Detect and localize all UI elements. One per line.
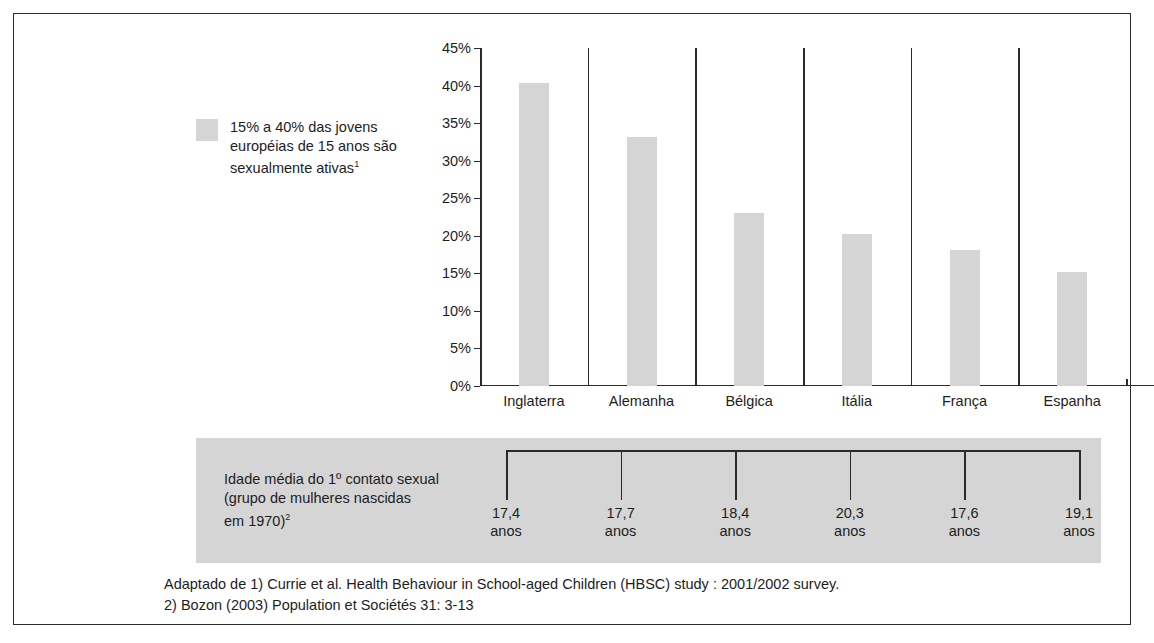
age-bracket-stem: [621, 450, 623, 500]
x-axis-tick: [480, 379, 482, 386]
age-panel-label-line-1: Idade média do 1º contato sexual: [224, 471, 439, 487]
category-separator-line: [803, 48, 805, 386]
age-value: 17,7anos: [605, 504, 636, 540]
legend-label-line-3: sexualmente ativas: [230, 160, 354, 176]
y-axis-tick-label: 0%: [450, 378, 480, 394]
age-bracket-line: [506, 450, 1079, 452]
age-number: 20,3: [836, 505, 864, 521]
x-axis-category-label: Alemanha: [609, 393, 674, 409]
age-value: 19,1anos: [1063, 504, 1094, 540]
bar: [950, 250, 980, 386]
age-panel-label: Idade média do 1º contato sexual (grupo …: [224, 470, 474, 531]
x-axis-category-label: Bélgica: [725, 393, 773, 409]
x-axis-category-label: Espanha: [1044, 393, 1101, 409]
age-unit: anos: [719, 523, 750, 539]
age-value: 20,3anos: [834, 504, 865, 540]
age-number: 17,7: [606, 505, 634, 521]
age-panel-label-line-2: (grupo de mulheres nascidas: [224, 490, 411, 506]
age-unit: anos: [834, 523, 865, 539]
category-separator-line: [1018, 48, 1020, 386]
age-number: 19,1: [1065, 505, 1093, 521]
plot-area: 0%5%10%15%20%25%30%35%40%45% InglaterraA…: [480, 48, 1126, 386]
bar: [1057, 272, 1087, 386]
legend-label-line-2: européias de 15 anos são: [230, 138, 397, 154]
category-separator-line: [695, 48, 697, 386]
footnote-line-1: Adaptado de 1) Currie et al. Health Beha…: [164, 576, 839, 592]
x-axis-tick: [695, 379, 697, 386]
y-axis-tick-label: 20%: [442, 228, 480, 244]
y-axis-tick-label: 15%: [442, 265, 480, 281]
x-axis-tick: [1126, 379, 1128, 386]
x-axis-tick: [588, 379, 590, 386]
age-number: 17,4: [492, 505, 520, 521]
age-unit: anos: [949, 523, 980, 539]
x-axis-category-label: França: [942, 393, 987, 409]
y-axis-tick-label: 45%: [442, 40, 480, 56]
footnote-line-2: 2) Bozon (2003) Population et Sociétés 3…: [164, 597, 474, 613]
legend-footnote-marker: 1: [354, 159, 359, 169]
bar: [842, 234, 872, 386]
age-value: 17,4anos: [490, 504, 521, 540]
bar: [519, 83, 549, 386]
category-separator-line: [911, 48, 913, 386]
age-value: 17,6anos: [949, 504, 980, 540]
x-axis-tick: [1018, 379, 1020, 386]
x-axis-category-label: Inglaterra: [503, 393, 564, 409]
age-number: 17,6: [950, 505, 978, 521]
y-axis-tick-label: 40%: [442, 78, 480, 94]
source-footnote: Adaptado de 1) Currie et al. Health Beha…: [164, 574, 1044, 616]
y-axis-tick-label: 35%: [442, 115, 480, 131]
y-axis-tick-label: 25%: [442, 190, 480, 206]
age-unit: anos: [605, 523, 636, 539]
age-bracket-stem: [735, 450, 737, 500]
legend-label-line-1: 15% a 40% das jovens: [230, 119, 378, 135]
age-panel: Idade média do 1º contato sexual (grupo …: [196, 438, 1101, 563]
bar: [734, 213, 764, 386]
category-separator-line: [588, 48, 590, 386]
legend-color-swatch: [196, 119, 218, 141]
legend-label: 15% a 40% das jovens européias de 15 ano…: [230, 118, 397, 177]
age-bracket-stem: [506, 450, 508, 500]
bar: [627, 137, 657, 386]
age-panel-label-line-3: em 1970): [224, 513, 285, 529]
age-number: 18,4: [721, 505, 749, 521]
x-axis-category-label: Itália: [842, 393, 873, 409]
age-value: 18,4anos: [719, 504, 750, 540]
age-bracket-stem: [1079, 450, 1081, 500]
y-axis-tick-label: 30%: [442, 153, 480, 169]
figure-frame: 15% a 40% das jovens européias de 15 ano…: [13, 13, 1131, 625]
age-bracket-stem: [850, 450, 852, 500]
age-bracket-stem: [964, 450, 966, 500]
age-bracket: [506, 450, 1079, 500]
x-axis-tick: [803, 379, 805, 386]
age-unit: anos: [490, 523, 521, 539]
y-axis-line: [480, 48, 482, 386]
y-axis-tick-label: 5%: [450, 340, 480, 356]
bar-chart: 0%5%10%15%20%25%30%35%40%45% InglaterraA…: [432, 42, 1132, 402]
age-unit: anos: [1063, 523, 1094, 539]
y-axis-tick-label: 10%: [442, 303, 480, 319]
x-axis-line: [480, 385, 1154, 387]
age-panel-footnote-marker: 2: [285, 512, 290, 522]
x-axis-tick: [911, 379, 913, 386]
chart-legend: 15% a 40% das jovens européias de 15 ano…: [196, 118, 426, 177]
